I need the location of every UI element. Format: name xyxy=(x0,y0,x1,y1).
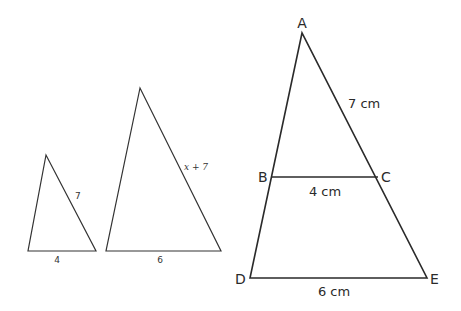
side-bc-label: 4 cm xyxy=(309,184,341,199)
similar-triangles-diagram: 7 4 x + 7 6 A B C D E 7 cm 4 cm 6 cm xyxy=(0,0,461,311)
medium-triangle-side-label: x + 7 xyxy=(184,162,208,172)
triangle-ade-outline xyxy=(250,33,427,278)
vertex-label-c: C xyxy=(381,169,391,185)
side-de-label: 6 cm xyxy=(318,284,350,299)
medium-triangle: x + 7 6 xyxy=(106,88,221,265)
vertex-label-a: A xyxy=(297,15,307,31)
vertex-label-b: B xyxy=(258,169,268,185)
vertex-label-e: E xyxy=(430,271,439,287)
large-triangle: A B C D E 7 cm 4 cm 6 cm xyxy=(235,15,439,299)
small-triangle-outline xyxy=(28,155,96,251)
small-triangle-base-label: 4 xyxy=(54,255,60,265)
vertex-label-d: D xyxy=(235,271,246,287)
small-triangle-side-label: 7 xyxy=(75,191,81,201)
side-ac-label: 7 cm xyxy=(348,96,380,111)
medium-triangle-base-label: 6 xyxy=(157,255,163,265)
small-triangle: 7 4 xyxy=(28,155,96,265)
